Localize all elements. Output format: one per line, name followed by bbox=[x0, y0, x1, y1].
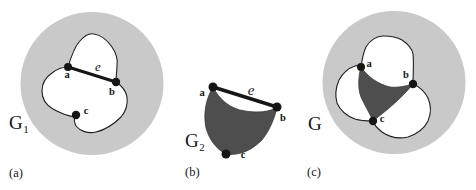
graph-label-g1: G1 bbox=[9, 112, 29, 135]
vertex-c-dot-a bbox=[72, 111, 80, 119]
vertex-b-label-c: b bbox=[403, 69, 409, 80]
graph-label-g: G bbox=[308, 113, 322, 134]
vertex-c-dot-b bbox=[222, 150, 231, 159]
vertex-a-dot-c bbox=[357, 63, 365, 71]
vertex-a-dot-b bbox=[209, 83, 218, 92]
vertex-b-label-b: b bbox=[280, 112, 286, 123]
graph-label-g1-subscript: 1 bbox=[23, 123, 29, 135]
figure-a: a b c e G1 (a) bbox=[9, 12, 164, 180]
vertex-a-label-a: a bbox=[64, 69, 70, 80]
graph-label-g2: G2 bbox=[185, 130, 205, 153]
vertex-a-label-b: a bbox=[199, 87, 205, 98]
vertex-b-label-a: b bbox=[109, 86, 115, 97]
vertex-c-label-b: c bbox=[241, 149, 246, 160]
graph-label-g1-base: G bbox=[9, 112, 23, 133]
graph-label-g2-subscript: 2 bbox=[199, 141, 205, 153]
caption-a: (a) bbox=[9, 166, 23, 180]
vertex-a-label-c: a bbox=[366, 58, 372, 69]
edge-e-label-b: e bbox=[248, 82, 255, 98]
figure-page: a b c e G1 (a) a b c e G2 (b) bbox=[0, 0, 476, 190]
vertex-c-label-a: c bbox=[84, 105, 89, 116]
caption-c: (c) bbox=[307, 165, 321, 179]
graph-embedding-figure: a b c e G1 (a) a b c e G2 (b) bbox=[0, 0, 476, 190]
vertex-c-dot-c bbox=[369, 117, 377, 125]
graph-label-g-base: G bbox=[308, 113, 322, 134]
vertex-b-dot-b bbox=[273, 103, 282, 112]
vertex-b-dot-c bbox=[409, 80, 417, 88]
caption-b: (b) bbox=[185, 165, 200, 179]
edge-e-label-a: e bbox=[95, 59, 101, 74]
figure-c: a b c G (c) bbox=[307, 11, 466, 179]
figure-b: a b c e G2 (b) bbox=[185, 82, 286, 179]
graph-label-g2-base: G bbox=[185, 130, 199, 151]
vertex-c-label-c: c bbox=[380, 113, 385, 124]
